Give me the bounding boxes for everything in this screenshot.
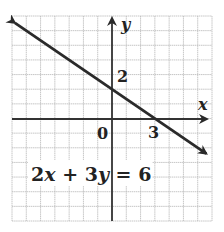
coordinate-plane: y x 2 3 0 2x + 3y = 6 xyxy=(0,0,224,232)
graph-line xyxy=(15,23,206,154)
equation-label: 2x + 3y = 6 xyxy=(31,163,151,185)
origin-label: 0 xyxy=(97,124,108,143)
y-tick-label: 2 xyxy=(117,67,128,86)
y-axis-label: y xyxy=(120,15,132,34)
x-axis-label: x xyxy=(197,95,208,114)
x-tick-label: 3 xyxy=(148,123,159,142)
